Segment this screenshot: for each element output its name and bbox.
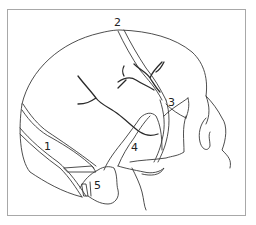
label-4: 4: [131, 142, 138, 153]
skull-drawing: [0, 0, 256, 225]
cranium-outline: [22, 30, 231, 168]
sagittal-vessel-left: [118, 31, 162, 100]
ear-outline: [199, 118, 210, 149]
label-3: 3: [168, 97, 175, 108]
zygomatic-arch: [130, 116, 186, 162]
label-1: 1: [44, 141, 51, 152]
label-2: 2: [114, 17, 121, 28]
vessel-descending: [154, 100, 169, 162]
occipital-crest: [64, 166, 96, 172]
diagram-canvas: 1 2 3 4 5: [0, 0, 256, 225]
label-5: 5: [94, 180, 101, 191]
mastoid-line: [90, 182, 91, 196]
condyle: [118, 166, 164, 175]
vessel-branch-left: [118, 66, 154, 90]
occipital-band-upper: [23, 104, 96, 166]
occipital-band-lower-inner: [20, 134, 82, 197]
